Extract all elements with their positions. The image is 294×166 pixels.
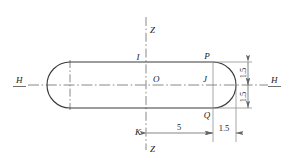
dimension-value-1-5-upper: 1.5	[238, 68, 248, 79]
axis-label-h-left: H	[15, 75, 23, 85]
dimension-value-1-5-horizontal: 1.5	[219, 123, 230, 133]
dimension-value-1-5-lower: 1.5	[238, 92, 248, 103]
axis-label-z-bottom: Z	[150, 144, 156, 154]
technical-drawing: 5 1.5 1.5 1.5 Z Z H H I O K P J Q	[0, 0, 294, 166]
point-label-q: Q	[204, 110, 211, 120]
axis-label-z-top: Z	[150, 25, 156, 35]
axis-label-h-right: H	[270, 75, 278, 85]
figure-svg: 5 1.5 1.5 1.5 Z Z H H I O K P J Q	[0, 0, 294, 166]
point-label-o: O	[153, 74, 160, 84]
point-label-i: I	[136, 52, 141, 62]
point-label-k: K	[134, 127, 142, 137]
point-label-j: J	[203, 74, 208, 84]
point-label-p: P	[203, 51, 210, 61]
dimension-value-5: 5	[177, 122, 181, 132]
